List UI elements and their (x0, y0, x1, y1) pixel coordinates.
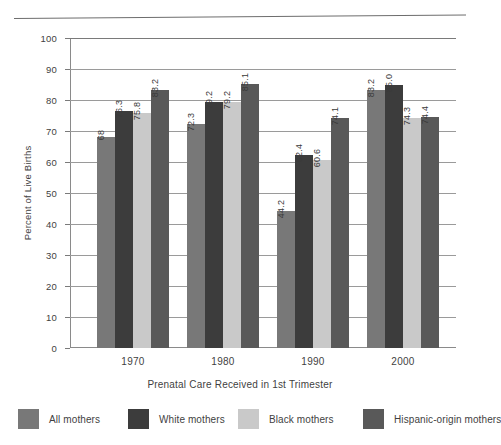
bar-value-label: 85.0 (384, 73, 394, 91)
bar-value-label: 85.1 (240, 73, 250, 91)
bar: 75.8 (133, 113, 151, 348)
legend-swatch (18, 409, 39, 429)
bar-group: 44.262.460.674.1 (277, 38, 349, 348)
y-tick-label: 0 (52, 343, 57, 354)
bar-value-label: 74.1 (330, 107, 340, 125)
y-tick-label: 40 (46, 219, 57, 230)
y-axis-title: Percent of Live Births (20, 38, 34, 348)
legend-label: Black mothers (269, 414, 334, 425)
legend-label: White mothers (159, 414, 225, 425)
y-tick-label: 50 (46, 188, 57, 199)
x-tick-label: 1980 (211, 356, 234, 367)
legend-item[interactable]: All mothers (18, 408, 100, 430)
y-axis-tick: 10 (65, 317, 70, 318)
bar-group: 6876.375.883.2 (97, 38, 169, 348)
y-axis-tick: 20 (65, 286, 70, 287)
bar: 74.1 (331, 118, 349, 348)
y-tick-label: 80 (46, 95, 57, 106)
bar-value-label: 74.3 (402, 107, 412, 125)
y-axis-tick: 100 (65, 38, 70, 39)
bar-value-label: 74.4 (420, 106, 430, 124)
bar-value-label: 79.2 (204, 91, 214, 109)
legend-swatch (363, 409, 384, 429)
y-tick-label: 70 (46, 126, 57, 137)
y-tick-label: 20 (46, 281, 57, 292)
bar-value-label: 72.3 (186, 113, 196, 131)
bar-group: 72.379.279.285.1 (187, 38, 259, 348)
y-tick-label: 10 (46, 312, 57, 323)
y-axis-tick: 60 (65, 162, 70, 163)
bar: 83.2 (151, 90, 169, 348)
bar: 44.2 (277, 211, 295, 348)
y-axis-tick: 40 (65, 224, 70, 225)
bar-value-label: 83.2 (366, 79, 376, 97)
legend-item[interactable]: White mothers (128, 408, 225, 430)
x-tick-label: 2000 (391, 356, 414, 367)
legend-swatch (128, 409, 149, 429)
bar: 79.2 (223, 102, 241, 348)
legend-label: Hispanic-origin mothers (394, 414, 501, 425)
y-axis-tick: 30 (65, 255, 70, 256)
bar: 74.3 (403, 118, 421, 348)
y-axis-tick: 90 (65, 69, 70, 70)
x-tick-label: 1990 (301, 356, 324, 367)
legend-swatch (238, 409, 259, 429)
legend-item[interactable]: Hispanic-origin mothers (363, 408, 501, 430)
bar: 74.4 (421, 117, 439, 348)
y-axis-tick: 0 (65, 348, 70, 349)
bar-group: 83.285.074.374.4 (367, 38, 439, 348)
bar: 60.6 (313, 160, 331, 348)
bar: 79.2 (205, 102, 223, 348)
bar-value-label: 79.2 (222, 91, 232, 109)
bar: 85.1 (241, 84, 259, 348)
bar: 76.3 (115, 111, 133, 348)
y-axis-tick: 50 (65, 193, 70, 194)
y-tick-label: 100 (41, 33, 57, 44)
bar-value-label: 44.2 (276, 200, 286, 218)
y-tick-label: 30 (46, 250, 57, 261)
y-tick-label: 90 (46, 64, 57, 75)
bar-value-label: 76.3 (114, 100, 124, 118)
bar: 85.0 (385, 85, 403, 349)
bar-value-label: 83.2 (150, 79, 160, 97)
plot-area: 0102030405060708090100 6876.375.883.272.… (70, 38, 456, 348)
bar: 68 (97, 137, 115, 348)
bar: 83.2 (367, 90, 385, 348)
legend-label: All mothers (49, 414, 100, 425)
bar: 62.4 (295, 155, 313, 348)
y-axis-tick: 80 (65, 100, 70, 101)
bars-layer: 6876.375.883.272.379.279.285.144.262.460… (71, 38, 456, 348)
x-tick-label: 1970 (121, 356, 144, 367)
legend-item[interactable]: Black mothers (238, 408, 334, 430)
y-tick-label: 60 (46, 157, 57, 168)
chart-legend: All mothersWhite mothersBlack mothersHis… (18, 408, 470, 432)
y-axis-tick: 70 (65, 131, 70, 132)
x-axis-title: Prenatal Care Received in 1st Trimester (0, 379, 480, 390)
bar-value-label: 62.4 (294, 143, 304, 161)
bar-value-label: 75.8 (132, 102, 142, 120)
header-divider-rule (14, 14, 466, 19)
bar-value-label: 68 (96, 130, 106, 140)
bar-value-label: 60.6 (312, 149, 322, 167)
bar: 72.3 (187, 124, 205, 348)
